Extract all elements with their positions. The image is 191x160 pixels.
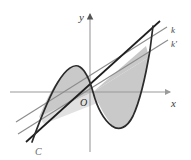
figure-canvas: y x O C k k' <box>0 0 191 160</box>
line-label-k-prime: k' <box>171 39 178 49</box>
math-figure: y x O C k k' <box>0 0 191 160</box>
curve-label-c: C <box>35 146 42 157</box>
line-label-k: k <box>171 25 176 35</box>
y-axis-label: y <box>78 11 84 23</box>
x-axis-label: x <box>170 97 176 109</box>
origin-label: O <box>80 97 87 108</box>
